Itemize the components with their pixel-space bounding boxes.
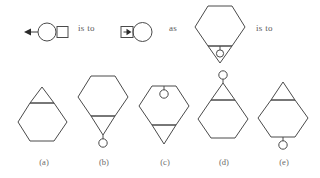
prompt-term-c[interactable] [194, 4, 250, 66]
analogy-puzzle-page: is to as is to [0, 0, 320, 178]
option-c-figure[interactable] [138, 82, 194, 152]
prompt-term-b[interactable] [120, 18, 166, 48]
option-d-label: (d) [200, 157, 248, 167]
option-a-label: (a) [20, 157, 68, 167]
option-e-figure[interactable] [257, 80, 313, 156]
option-d-figure[interactable] [197, 70, 253, 152]
option-a-figure[interactable] [17, 86, 71, 146]
connector-is-to-1: is to [78, 23, 95, 33]
prompt-term-a[interactable] [24, 18, 76, 48]
connector-as: as [169, 23, 177, 33]
option-e-label: (e) [260, 157, 308, 167]
connector-is-to-2: is to [256, 23, 273, 33]
option-b-label: (b) [80, 157, 128, 167]
option-b-figure[interactable] [77, 75, 133, 151]
option-c-label: (c) [141, 157, 189, 167]
